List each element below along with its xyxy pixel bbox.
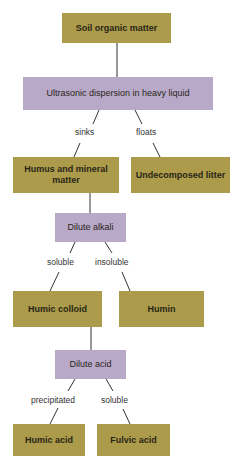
node-humus-mineral-matter: Humus and mineral matter [13,157,119,193]
node-humic-colloid: Humic colloid [13,291,102,327]
node-soil-organic-matter: Soil organic matter [62,13,171,43]
node-ultrasonic-dispersion: Ultrasonic dispersion in heavy liquid [23,77,213,110]
node-fulvic-acid: Fulvic acid [97,424,170,456]
node-dilute-acid: Dilute acid [55,350,126,379]
node-humic-acid: Humic acid [13,424,85,456]
node-humin: Humin [119,291,204,327]
node-undecomposed-litter: Undecomposed litter [131,157,230,193]
edge-label-floats: floats [136,127,156,137]
edge-label-insoluble: insoluble [95,257,129,267]
edge-label-sinks: sinks [75,127,94,137]
edge-label-precipitated: precipitated [31,395,75,405]
edge-label-soluble-acid: soluble [101,395,128,405]
edge-label-soluble: soluble [47,257,74,267]
node-dilute-alkali: Dilute alkali [55,213,126,242]
